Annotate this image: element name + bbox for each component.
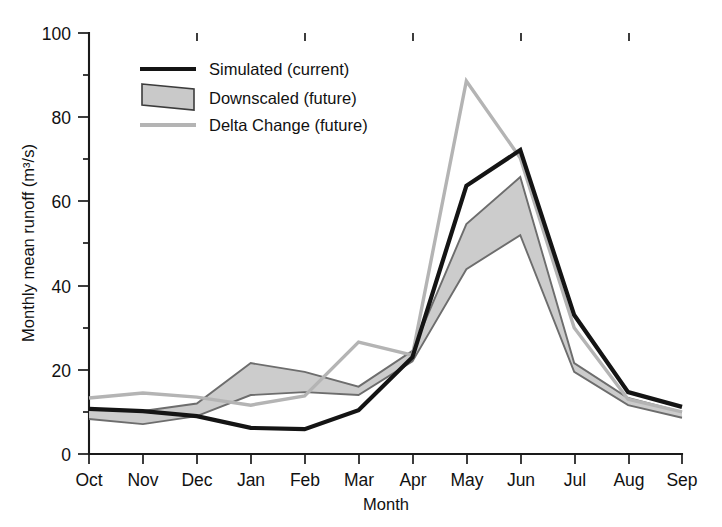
- legend: Simulated (current) Downscaled (future) …: [140, 60, 368, 134]
- y-tick-label-80: 80: [52, 108, 72, 128]
- x-tick-label-feb: Feb: [290, 470, 320, 490]
- legend-label-delta-change: Delta Change (future): [209, 116, 368, 134]
- x-tick-label-apr: Apr: [399, 470, 426, 490]
- x-tick-label-jun: Jun: [507, 470, 535, 490]
- y-axis-title: Monthly mean runoff (m³/s): [19, 144, 37, 342]
- x-axis-ticks: [89, 454, 682, 464]
- runoff-chart: 100 80 60 40 20 0 Oct Nov Dec Jan Feb Ma…: [0, 0, 722, 527]
- series-downscaled-band: [89, 177, 682, 424]
- x-tick-label-jan: Jan: [237, 470, 265, 490]
- x-tick-label-mar: Mar: [344, 470, 374, 490]
- series-delta-change-line: [89, 81, 682, 412]
- x-tick-label-sep: Sep: [666, 470, 697, 490]
- legend-swatch-downscaled: [142, 84, 194, 110]
- y-tick-label-20: 20: [52, 361, 72, 381]
- legend-label-downscaled: Downscaled (future): [209, 89, 357, 107]
- top-edge-ticks: [197, 33, 629, 41]
- figure-caption-strip: [0, 505, 722, 527]
- x-tick-label-oct: Oct: [75, 470, 102, 490]
- y-tick-label-100: 100: [42, 24, 71, 44]
- series-simulated-line: [89, 150, 682, 429]
- y-tick-label-40: 40: [52, 277, 72, 297]
- y-tick-label-60: 60: [52, 192, 72, 212]
- legend-label-simulated: Simulated (current): [209, 60, 349, 78]
- x-tick-label-dec: Dec: [181, 470, 212, 490]
- x-tick-label-may: May: [450, 470, 483, 490]
- x-tick-label-jul: Jul: [564, 470, 586, 490]
- y-tick-label-0: 0: [61, 445, 71, 465]
- y-axis-ticks: [78, 33, 89, 454]
- figure-container: 100 80 60 40 20 0 Oct Nov Dec Jan Feb Ma…: [0, 0, 722, 527]
- x-tick-label-nov: Nov: [127, 470, 158, 490]
- x-tick-label-aug: Aug: [613, 470, 644, 490]
